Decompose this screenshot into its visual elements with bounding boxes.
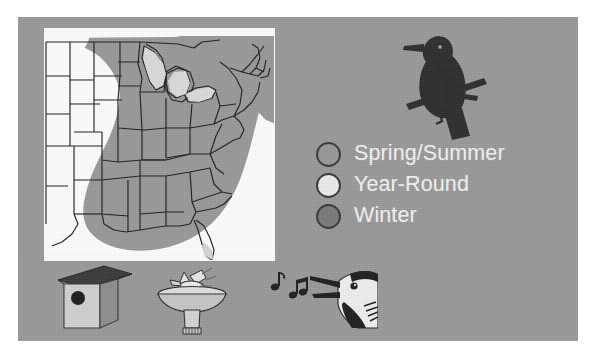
infographic-panel: Spring/Summer Year-Round Winter [18,17,578,341]
range-map-card [44,28,275,261]
legend-label-year-round: Year-Round [354,174,469,196]
birdbath-svg [150,262,236,336]
range-legend: Spring/Summer Year-Round Winter [316,139,568,232]
birdhouse-svg [44,262,136,334]
legend-swatch-spring-summer [316,142,341,167]
bird-silhouette-svg [388,22,498,142]
birdhouse-icon [44,262,136,334]
birdsong-icon [266,266,378,334]
birdhouse-entrance-hole-icon [71,291,85,305]
legend-item-year-round[interactable]: Year-Round [316,170,568,200]
birdsong-svg [266,266,378,334]
bird-eye-icon [350,282,357,289]
legend-item-spring-summer[interactable]: Spring/Summer [316,139,568,169]
legend-label-spring-summer: Spring/Summer [354,143,505,165]
singing-bird-head-icon [310,271,378,328]
perched-bird-silhouette [388,22,498,142]
legend-label-winter: Winter [354,205,417,227]
music-notes-icon [270,272,308,299]
legend-swatch-winter [316,204,341,229]
bird-eye-icon [438,45,442,49]
screenshot-root: Spring/Summer Year-Round Winter [0,0,596,356]
legend-item-winter[interactable]: Winter [316,201,568,231]
birdbath-icon [150,262,236,336]
legend-swatch-year-round [316,173,341,198]
range-map-svg [44,28,275,261]
